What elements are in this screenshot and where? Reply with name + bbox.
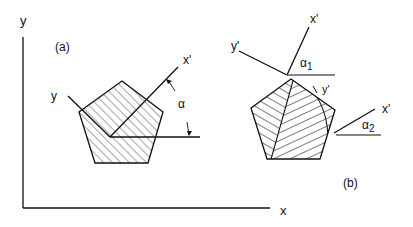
- x-prime-label-b1: x': [310, 12, 318, 26]
- arrowhead-bottom-icon: [187, 131, 192, 136]
- panel-b-label: (b): [343, 176, 358, 190]
- alpha1-label: α1: [300, 56, 313, 72]
- y-label-a: y: [51, 89, 57, 103]
- y-prime-label-b2: y': [322, 83, 330, 95]
- y-prime-label-b1: y': [231, 39, 239, 53]
- diagram-canvas: y x (a) y x' α y' x' α1: [0, 0, 413, 227]
- panel-a: (a) y x' α: [51, 40, 200, 163]
- panel-b: y' x' α1 y' x' α2 (b): [231, 12, 390, 190]
- y-prime-axis-b2: [313, 86, 317, 93]
- panel-a-label: (a): [55, 40, 70, 54]
- y-axis-label: y: [20, 13, 27, 28]
- x-prime-label-b2: x': [382, 102, 390, 116]
- y-prime-axis-b1: [239, 51, 287, 75]
- pentagon-a: [79, 81, 163, 163]
- arrowhead-top-icon: [166, 79, 172, 84]
- alpha-label-a: α: [178, 97, 185, 111]
- x-axis-label: x: [280, 203, 287, 218]
- alpha2-label: α2: [362, 118, 375, 134]
- x-prime-label-a: x': [183, 53, 191, 67]
